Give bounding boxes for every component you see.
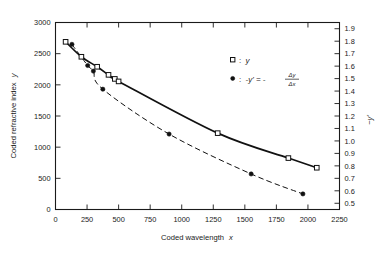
y2-tick-label: 1.6: [345, 62, 355, 71]
y-axis-title-var: y: [9, 72, 18, 78]
legend-label-y: : y: [239, 56, 250, 65]
y-axis-title-text: Coded refractive index: [9, 82, 18, 158]
data-point-filled-circle: [249, 172, 253, 176]
svg-text:−y′: −y′: [365, 115, 374, 125]
data-point-open-square: [286, 156, 291, 161]
y2-axis-title-var: y′: [365, 115, 374, 122]
y-tick-label: 1500: [34, 112, 50, 121]
x-axis-title-text: Coded wavelength: [161, 233, 224, 242]
y2-tick-label: 0.7: [345, 174, 355, 183]
data-point-filled-circle: [70, 42, 74, 46]
y-tick-label: 1000: [34, 143, 50, 152]
legend-fraction: Δy Δx: [285, 72, 299, 86]
legend-open-square-icon: [231, 58, 235, 62]
legend-filled-circle-icon: [231, 76, 235, 80]
series-y-line: [66, 42, 317, 168]
data-point-filled-circle: [167, 132, 171, 136]
x-tick-label: 250: [81, 215, 93, 224]
data-point-filled-circle: [91, 69, 95, 73]
chart-svg: 050010001500200025003000 0.50.60.70.80.9…: [0, 0, 390, 260]
y2-tick-label: 1.1: [345, 124, 355, 133]
legend-item-yprime: : -y' = - Δy Δx: [231, 72, 299, 86]
data-point-filled-circle: [86, 63, 90, 67]
top-axis-ticks: [87, 23, 308, 28]
y-tick-label: 500: [38, 174, 50, 183]
data-point-open-square: [215, 131, 220, 136]
x-tick-label: 2250: [331, 215, 347, 224]
legend-item-y: : y: [231, 56, 251, 65]
y2-tick-label: 0.9: [345, 149, 355, 158]
legend-fraction-denominator: Δx: [288, 81, 297, 87]
y2-tick-label: 0.8: [345, 162, 355, 171]
series-yprime-line: [72, 44, 303, 194]
chart-figure: 050010001500200025003000 0.50.60.70.80.9…: [0, 0, 390, 260]
x-tick-label: 0: [53, 215, 57, 224]
y2-axis-tick-labels: 0.50.60.70.80.91.01.11.21.31.41.51.61.71…: [345, 24, 355, 208]
y2-tick-label: 1.4: [345, 87, 355, 96]
legend-sep-2: :: [239, 75, 241, 84]
series-yprime-markers: [70, 42, 305, 196]
x-tick-label: 1250: [205, 215, 221, 224]
y2-tick-label: 0.6: [345, 187, 355, 196]
data-point-open-square: [314, 165, 319, 170]
y-axis-title: Coded refractive index y: [9, 72, 18, 158]
plot-frame: [56, 23, 340, 210]
legend-text-1: y: [244, 56, 250, 65]
x-tick-label: 2000: [300, 215, 316, 224]
data-point-open-square: [106, 73, 111, 78]
x-tick-label: 1000: [173, 215, 189, 224]
svg-text:Coded wavelength x: Coded wavelength x: [161, 233, 234, 242]
y2-tick-label: 1.2: [345, 112, 355, 121]
x-tick-label: 750: [144, 215, 156, 224]
y2-tick-label: 1.0: [345, 137, 355, 146]
y-tick-label: 2500: [34, 49, 50, 58]
x-tick-label: 1750: [268, 215, 284, 224]
y2-axis-ticks: [335, 29, 340, 204]
data-point-filled-circle: [101, 87, 105, 91]
legend-fraction-numerator: Δy: [288, 72, 297, 78]
y2-tick-label: 1.9: [345, 24, 355, 33]
legend-text-2: -y' = -: [245, 75, 265, 84]
svg-text:Coded refractive index: Coded refractive index y: [9, 72, 18, 158]
data-point-open-square: [79, 54, 84, 59]
y2-tick-label: 1.8: [345, 37, 355, 46]
legend-sep-1: :: [239, 56, 241, 65]
y2-tick-label: 1.7: [345, 49, 355, 58]
data-point-open-square: [95, 64, 100, 69]
series-y-markers: [63, 40, 319, 171]
x-axis-tick-labels: 0250500750100012501500175020002250: [53, 215, 347, 224]
x-tick-label: 500: [112, 215, 124, 224]
y2-tick-label: 1.3: [345, 99, 355, 108]
data-point-open-square: [63, 40, 68, 45]
y2-axis-title: −y′: [365, 115, 374, 125]
legend-label-yprime: : -y' = -: [239, 75, 266, 84]
y-axis-tick-labels: 050010001500200025003000: [34, 18, 50, 214]
y-tick-label: 2000: [34, 81, 50, 90]
x-axis-title-var: x: [228, 233, 234, 242]
x-axis-ticks: [56, 205, 340, 210]
x-tick-label: 1500: [237, 215, 253, 224]
data-point-filled-circle: [301, 192, 305, 196]
x-axis-title: Coded wavelength x: [161, 233, 234, 242]
y-tick-label: 0: [46, 205, 50, 214]
y2-tick-label: 0.5: [345, 199, 355, 208]
series-yprime-curve: [72, 44, 303, 194]
y-tick-label: 3000: [34, 18, 50, 27]
chart-legend: : y : -y' = - Δy Δx: [231, 56, 300, 87]
data-point-open-square: [116, 79, 121, 84]
series-y-curve: [66, 42, 317, 168]
y-axis-ticks: [56, 23, 61, 210]
y2-tick-label: 1.5: [345, 74, 355, 83]
